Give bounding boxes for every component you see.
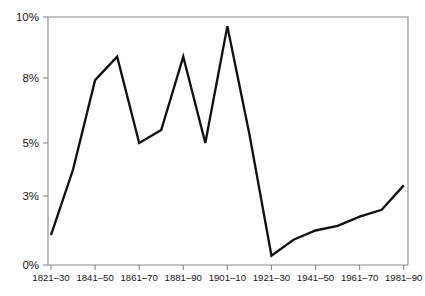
x-axis-tick-marks xyxy=(51,265,404,270)
x-tick-label: 1901–10 xyxy=(209,272,246,283)
y-axis-tick-labels: 0%3%5%8%10% xyxy=(16,11,39,271)
x-axis-tick-labels: 1821–301841–501861–701881–901901–101921–… xyxy=(32,272,422,283)
x-tick-label: 1861–70 xyxy=(121,272,158,283)
data-series-line xyxy=(51,26,404,256)
x-tick-label: 1961–70 xyxy=(341,272,378,283)
x-tick-label: 1881–90 xyxy=(165,272,202,283)
x-tick-label: 1921–30 xyxy=(253,272,290,283)
x-tick-label: 1841–50 xyxy=(76,272,113,283)
x-tick-label: 1981–90 xyxy=(385,272,422,283)
line-chart: 0%3%5%8%10% 1821–301841–501861–701881–90… xyxy=(0,0,425,296)
y-tick-label: 5% xyxy=(22,137,39,149)
y-tick-label: 10% xyxy=(16,11,39,23)
y-tick-label: 0% xyxy=(22,259,39,271)
y-tick-label: 3% xyxy=(22,190,39,202)
x-tick-label: 1821–30 xyxy=(32,272,69,283)
y-tick-label: 8% xyxy=(22,72,39,84)
plot-frame xyxy=(48,17,408,265)
y-axis-tick-marks xyxy=(43,17,48,265)
axis-frame xyxy=(48,17,408,265)
chart-container: 0%3%5%8%10% 1821–301841–501861–701881–90… xyxy=(0,0,425,296)
x-tick-label: 1941–50 xyxy=(297,272,334,283)
